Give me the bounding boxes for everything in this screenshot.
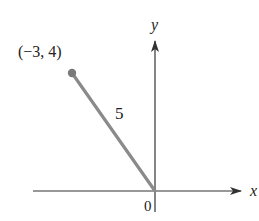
origin-label: 0 bbox=[144, 198, 152, 214]
coordinate-diagram: (−3, 4) 5 0 x y bbox=[0, 0, 259, 221]
x-axis-label: x bbox=[249, 182, 257, 199]
vector-segment bbox=[72, 73, 155, 191]
length-label: 5 bbox=[115, 104, 124, 123]
point-label: (−3, 4) bbox=[18, 43, 62, 61]
y-axis-label: y bbox=[149, 16, 159, 34]
point-marker bbox=[68, 69, 76, 77]
